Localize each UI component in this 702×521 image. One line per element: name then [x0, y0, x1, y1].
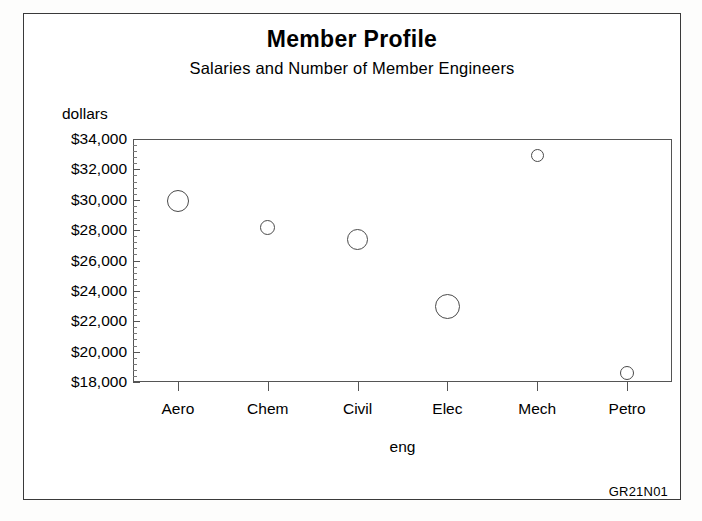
- chart-title: Member Profile: [23, 26, 681, 53]
- y-axis-tick-label: $28,000: [71, 221, 131, 239]
- x-axis-label: eng: [133, 438, 672, 456]
- y-axis-label: dollars: [62, 105, 108, 123]
- x-axis-major-tick: [358, 382, 359, 391]
- x-axis-tick-label: Chem: [247, 400, 288, 418]
- data-point-bubble: [167, 190, 189, 212]
- y-axis-tick-label: $26,000: [71, 252, 131, 270]
- x-axis-major-tick: [268, 382, 269, 391]
- data-point-bubble: [347, 229, 368, 250]
- data-point-bubble: [260, 220, 275, 235]
- y-axis-tick-label: $30,000: [71, 191, 131, 209]
- x-axis-tick-label: Mech: [518, 400, 556, 418]
- y-axis-major-tick: [133, 382, 140, 383]
- x-axis-tick-label: Petro: [609, 400, 646, 418]
- x-axis-major-tick: [627, 382, 628, 391]
- data-point-layer: [133, 139, 672, 382]
- x-axis-tick-label: Civil: [343, 400, 372, 418]
- x-axis-major-tick: [178, 382, 179, 391]
- y-axis-tick-label: $34,000: [71, 130, 131, 148]
- data-point-bubble: [620, 366, 634, 380]
- x-axis-tick-label: Elec: [432, 400, 462, 418]
- x-axis-major-tick: [447, 382, 448, 391]
- y-axis-tick-label: $24,000: [71, 282, 131, 300]
- chart-subtitle: Salaries and Number of Member Engineers: [23, 59, 681, 78]
- y-axis-tick-label: $20,000: [71, 343, 131, 361]
- y-axis-tick-labels: $18,000$20,000$22,000$24,000$26,000$28,0…: [0, 139, 131, 382]
- figure-reference-code: GR21N01: [609, 484, 668, 499]
- y-axis-tick-label: $32,000: [71, 160, 131, 178]
- data-point-bubble: [531, 149, 544, 162]
- chart-figure: Member Profile Salaries and Number of Me…: [0, 0, 702, 521]
- x-axis-major-tick: [537, 382, 538, 391]
- y-axis-tick-label: $22,000: [71, 312, 131, 330]
- y-axis-tick-label: $18,000: [71, 373, 131, 391]
- x-axis-tick-label: Aero: [162, 400, 195, 418]
- data-point-bubble: [435, 294, 460, 319]
